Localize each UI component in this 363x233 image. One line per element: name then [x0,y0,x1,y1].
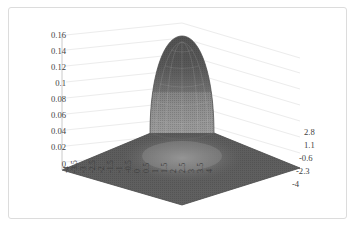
x-tick-10: 1 [151,169,160,173]
x-tick-15: 3.5 [196,163,205,173]
x-tick-11: 1.5 [160,163,169,173]
x-tick-9: 0.5 [142,163,151,173]
x-tick-7: -0.5 [124,160,133,173]
y-tick-4: -4 [292,179,299,189]
x-tick-12: 2 [169,169,178,173]
x-tick-5: -1.5 [106,160,115,173]
surface-chart: 0.16 0.14 0.12 0.1 0.08 0.06 0.04 0.02 0… [0,0,363,233]
x-tick-8: 0 [133,169,142,173]
y-tick-3: -2.3 [296,166,310,176]
x-tick-3: -2.5 [88,160,97,173]
x-tick-16: 4 [205,169,214,173]
x-tick-1: -3.5 [70,160,79,173]
y-tick-0: 2.8 [304,127,315,137]
x-axis-labels: -4 -3.5 -3 -2.5 -2 -1.5 -1 -0.5 0 0.5 1 … [0,0,363,233]
x-tick-6: -1 [115,166,124,173]
y-tick-1: 1.1 [304,140,315,150]
x-tick-14: 3 [187,169,196,173]
x-tick-2: -3 [79,166,88,173]
x-tick-4: -2 [97,166,106,173]
x-tick-13: 2.5 [178,163,187,173]
y-tick-2: -0.6 [299,153,313,163]
